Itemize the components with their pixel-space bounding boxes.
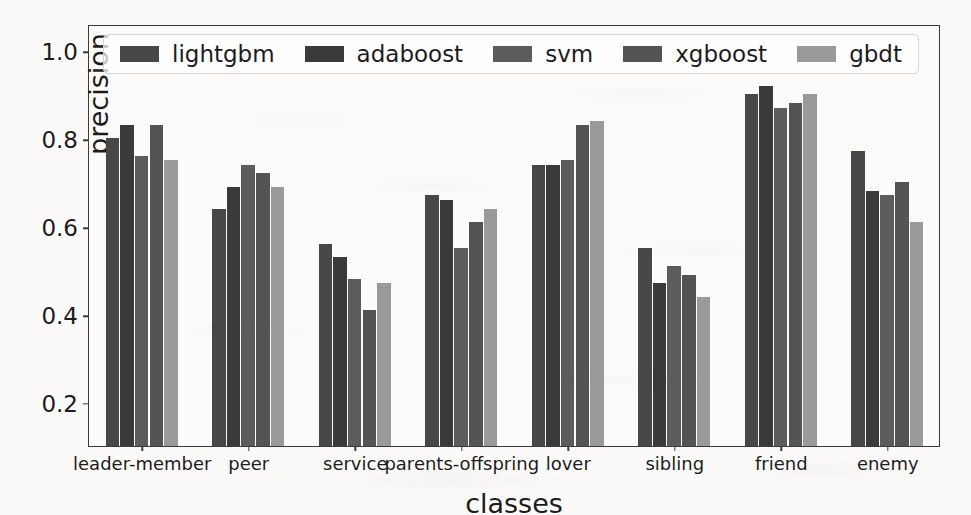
x-axis-label: classes	[89, 488, 939, 515]
bar-gbdt-leader-member	[164, 160, 178, 446]
legend-entry-svm[interactable]: svm	[493, 41, 593, 67]
x-tick-label: parents-offspring	[384, 453, 539, 474]
bar-adaboost-parents-offspring	[440, 200, 454, 446]
x-tick-label: enemy	[857, 453, 919, 474]
bar-xgboost-leader-member	[150, 125, 164, 446]
y-tick-label: 0.6	[41, 215, 78, 241]
x-tick-label: service	[323, 453, 387, 474]
bar-adaboost-leader-member	[120, 125, 134, 446]
y-tick-label: 0.8	[41, 127, 78, 153]
bar-adaboost-enemy	[866, 191, 880, 446]
bar-lightgbm-service	[319, 244, 333, 446]
legend-entry-lightgbm[interactable]: lightgbm	[120, 41, 275, 67]
bar-xgboost-sibling	[682, 275, 696, 446]
x-tick-mark	[461, 446, 462, 451]
legend-label-lightgbm: lightgbm	[172, 41, 275, 67]
x-tick-mark	[887, 446, 888, 451]
bar-gbdt-lover	[590, 121, 604, 446]
legend-swatch-svm	[493, 46, 532, 62]
legend-swatch-lightgbm	[120, 46, 159, 62]
x-tick-mark	[568, 446, 569, 451]
bar-lightgbm-parents-offspring	[425, 195, 439, 446]
bar-adaboost-peer	[227, 187, 241, 446]
bar-gbdt-parents-offspring	[484, 209, 498, 446]
bar-chart-figure: precision classes 0.20.40.60.81.0 leader…	[0, 0, 971, 515]
bar-svm-leader-member	[135, 156, 149, 446]
y-tick-label: 1.0	[41, 39, 78, 65]
x-tick-label: leader-member	[73, 453, 211, 474]
bar-xgboost-lover	[576, 125, 590, 446]
x-tick-mark	[142, 446, 143, 451]
bar-svm-enemy	[880, 195, 894, 446]
legend-label-gbdt: gbdt	[849, 41, 902, 67]
bar-adaboost-sibling	[653, 283, 667, 446]
legend-label-adaboost: adaboost	[357, 41, 464, 67]
legend-swatch-gbdt	[797, 46, 836, 62]
bar-gbdt-sibling	[697, 297, 711, 446]
bar-svm-sibling	[667, 266, 681, 446]
x-tick-label: lover	[546, 453, 591, 474]
bar-xgboost-friend	[789, 103, 803, 446]
chart-legend: lightgbmadaboostsvmxgboostgbdt	[103, 34, 919, 74]
bar-adaboost-friend	[759, 86, 773, 446]
x-tick-label: friend	[755, 453, 808, 474]
bars-plot-area	[89, 26, 939, 446]
bar-svm-peer	[241, 165, 255, 446]
bar-svm-friend	[774, 108, 788, 446]
y-tick-label: 0.4	[41, 303, 78, 329]
legend-entry-adaboost[interactable]: adaboost	[305, 41, 464, 67]
y-tick-label: 0.2	[41, 391, 78, 417]
bar-xgboost-peer	[256, 173, 270, 446]
bar-lightgbm-lover	[532, 165, 546, 446]
legend-label-svm: svm	[545, 41, 593, 67]
x-tick-mark	[674, 446, 675, 451]
bar-lightgbm-peer	[212, 209, 226, 446]
plot-frame: precision classes 0.20.40.60.81.0 leader…	[88, 25, 940, 447]
bar-svm-lover	[561, 160, 575, 446]
bar-xgboost-enemy	[895, 182, 909, 446]
legend-entry-gbdt[interactable]: gbdt	[797, 41, 902, 67]
legend-swatch-xgboost	[623, 46, 662, 62]
bar-lightgbm-friend	[745, 94, 759, 446]
bar-lightgbm-enemy	[851, 151, 865, 446]
bar-gbdt-service	[377, 283, 391, 446]
bar-lightgbm-sibling	[638, 248, 652, 446]
bar-adaboost-lover	[546, 165, 560, 446]
x-tick-mark	[781, 446, 782, 451]
legend-entry-xgboost[interactable]: xgboost	[623, 41, 767, 67]
bar-lightgbm-leader-member	[106, 138, 120, 446]
bar-gbdt-friend	[803, 94, 817, 446]
bar-xgboost-service	[363, 310, 377, 446]
bar-svm-parents-offspring	[454, 248, 468, 446]
bar-gbdt-enemy	[910, 222, 924, 446]
x-tick-mark	[355, 446, 356, 451]
x-tick-label: sibling	[645, 453, 704, 474]
bar-gbdt-peer	[271, 187, 285, 446]
legend-swatch-adaboost	[305, 46, 344, 62]
x-tick-label: peer	[228, 453, 269, 474]
bar-svm-service	[348, 279, 362, 446]
legend-label-xgboost: xgboost	[675, 41, 767, 67]
bar-xgboost-parents-offspring	[469, 222, 483, 446]
x-tick-mark	[248, 446, 249, 451]
bar-adaboost-service	[333, 257, 347, 446]
